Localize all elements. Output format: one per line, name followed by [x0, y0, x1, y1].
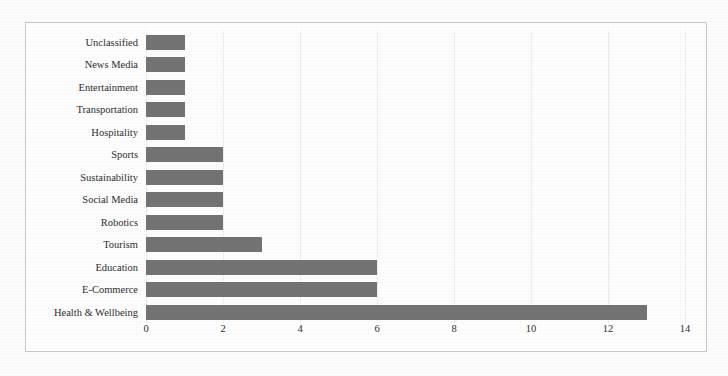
bar[interactable] — [146, 170, 223, 185]
bar-row[interactable]: Sustainability — [146, 166, 685, 189]
category-label: Sustainability — [28, 170, 138, 185]
category-label: Hospitality — [28, 125, 138, 140]
bar-row[interactable]: Education — [146, 256, 685, 279]
bar[interactable] — [146, 35, 185, 50]
category-label: Social Media — [28, 192, 138, 207]
bar-row[interactable]: Robotics — [146, 211, 685, 234]
bar[interactable] — [146, 192, 223, 207]
category-label: Transportation — [28, 102, 138, 117]
bar[interactable] — [146, 237, 262, 252]
x-tick-label: 4 — [297, 323, 302, 334]
bar[interactable] — [146, 102, 185, 117]
chart-page: UnclassifiedNews MediaEntertainmentTrans… — [0, 0, 728, 376]
bar[interactable] — [146, 282, 377, 297]
x-tick-label: 14 — [680, 323, 691, 334]
bar[interactable] — [146, 215, 223, 230]
category-label: Sports — [28, 147, 138, 162]
category-label: Education — [28, 260, 138, 275]
category-label: Entertainment — [28, 80, 138, 95]
category-label: Robotics — [28, 215, 138, 230]
bar-row[interactable]: Social Media — [146, 188, 685, 211]
bar[interactable] — [146, 305, 647, 320]
bar-row[interactable]: Entertainment — [146, 76, 685, 99]
x-tick-label: 10 — [526, 323, 537, 334]
bar-row[interactable]: Transportation — [146, 98, 685, 121]
category-label: E-Commerce — [28, 282, 138, 297]
x-tick-label: 6 — [374, 323, 379, 334]
category-label: Unclassified — [28, 35, 138, 50]
bar[interactable] — [146, 125, 185, 140]
category-label: Health & Wellbeing — [28, 305, 138, 320]
bar-row[interactable]: Sports — [146, 143, 685, 166]
bar-row[interactable]: News Media — [146, 53, 685, 76]
x-tick-label: 8 — [451, 323, 456, 334]
x-tick-label: 12 — [603, 323, 614, 334]
bar[interactable] — [146, 147, 223, 162]
chart-frame: UnclassifiedNews MediaEntertainmentTrans… — [25, 22, 707, 352]
bar[interactable] — [146, 80, 185, 95]
bar-row[interactable]: E-Commerce — [146, 278, 685, 301]
bar[interactable] — [146, 57, 185, 72]
category-label: Tourism — [28, 237, 138, 252]
x-tick-label: 2 — [220, 323, 225, 334]
bar-row[interactable]: Unclassified — [146, 31, 685, 54]
bar-row[interactable]: Hospitality — [146, 121, 685, 144]
bar-row[interactable]: Health & Wellbeing — [146, 301, 685, 324]
bar[interactable] — [146, 260, 377, 275]
bar-row[interactable]: Tourism — [146, 233, 685, 256]
x-axis: 02468101214 — [146, 323, 685, 345]
x-tick-label: 0 — [143, 323, 148, 334]
category-label: News Media — [28, 57, 138, 72]
plot-area: UnclassifiedNews MediaEntertainmentTrans… — [146, 31, 685, 323]
gridline — [685, 31, 686, 323]
